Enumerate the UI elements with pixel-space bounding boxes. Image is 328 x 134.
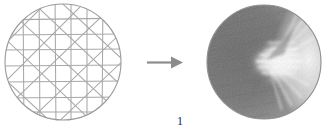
arrow-head — [171, 57, 183, 69]
output-disc-graphic — [206, 2, 324, 122]
transform-arrow — [145, 50, 185, 76]
input-disc-graphic — [3, 2, 123, 122]
figure-container: 1 — [0, 0, 328, 134]
input-disc — [3, 2, 123, 122]
output-disc-content — [206, 2, 324, 122]
arrow-right-icon — [145, 50, 185, 76]
figure-caption: 1 — [160, 111, 200, 131]
noise-grain-overlay — [206, 2, 324, 122]
output-disc — [206, 2, 324, 122]
input-disc-fill — [5, 4, 121, 120]
